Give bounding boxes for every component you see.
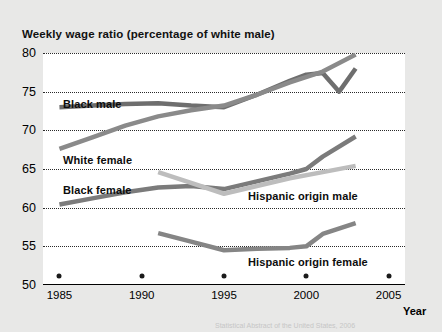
chart-figure: Weekly wage ratio (percentage of white m… <box>0 0 442 332</box>
series-lines <box>43 53 405 285</box>
series-label: Black female <box>63 184 132 196</box>
y-axis-tick-label: 75 <box>22 85 36 99</box>
x-axis-tick-label: 1985 <box>47 289 73 301</box>
x-axis-tick-label: 2000 <box>293 289 319 301</box>
y-axis-tick-label: 65 <box>22 162 36 176</box>
footer-source-note: Statistical Abstract of the United State… <box>215 322 442 329</box>
chart-title: Weekly wage ratio (percentage of white m… <box>22 28 275 40</box>
x-axis-title: Year <box>403 305 426 317</box>
plot-wrapper: 50556065707580 19851990199520002005 Blac… <box>43 53 405 285</box>
series-label: White female <box>63 154 132 166</box>
y-axis-tick-label: 50 <box>22 278 36 292</box>
y-axis-tick-label: 70 <box>22 123 36 137</box>
x-axis-tick-label: 2005 <box>376 289 402 301</box>
x-axis-tick-label: 1995 <box>211 289 237 301</box>
x-axis-tick-label: 1990 <box>129 289 155 301</box>
series-label: Hispanic origin female <box>248 256 368 268</box>
y-axis-tick-label: 80 <box>22 46 36 60</box>
y-axis-tick-label: 55 <box>22 239 36 253</box>
y-axis-tick-label: 60 <box>22 201 36 215</box>
series-line <box>158 223 355 250</box>
series-label: Hispanic origin male <box>248 190 358 202</box>
series-label: Black male <box>63 98 122 110</box>
